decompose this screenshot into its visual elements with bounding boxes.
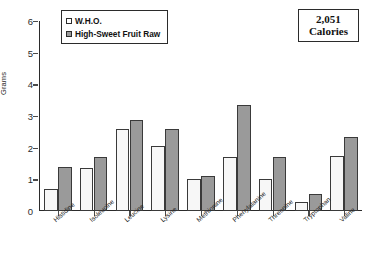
bar	[295, 202, 309, 211]
y-tick-mark	[33, 84, 38, 85]
bars-layer	[40, 21, 362, 211]
chart-legend: W.H.O.High-Sweet Fruit Raw	[61, 10, 168, 44]
white-square-swatch	[66, 18, 72, 24]
y-tick-0: 0	[0, 206, 39, 216]
bar-group	[80, 21, 108, 211]
bar	[223, 157, 237, 211]
calories-callout: 2,051 Calories	[298, 9, 359, 42]
bar-group	[116, 21, 144, 211]
bar	[130, 120, 144, 211]
y-tick-6: 6	[0, 16, 39, 26]
bar-group	[295, 21, 323, 211]
bar	[44, 189, 58, 211]
bar-chart: Grams 0123456 HistidineIsoleucineLeucine…	[0, 0, 370, 265]
bar-group	[330, 21, 358, 211]
y-tick-5: 5	[0, 48, 39, 58]
bar-group	[259, 21, 287, 211]
bar	[330, 156, 344, 211]
y-tick-2: 2	[0, 143, 39, 153]
bar	[237, 105, 251, 211]
calories-label: Calories	[309, 25, 348, 37]
bar	[151, 146, 165, 211]
y-tick-mark	[33, 148, 38, 149]
bar-group	[223, 21, 251, 211]
bar	[116, 129, 130, 211]
bar	[187, 179, 201, 211]
y-tick-3: 3	[0, 111, 39, 121]
y-tick-mark	[33, 116, 38, 117]
calories-value: 2,051	[309, 13, 348, 25]
bar-group	[187, 21, 215, 211]
bar	[80, 168, 94, 211]
legend-item-label: High-Sweet Fruit Raw	[75, 29, 160, 39]
y-tick-mark	[33, 53, 38, 54]
y-tick-4: 4	[0, 79, 39, 89]
legend-item-label: W.H.O.	[75, 16, 102, 26]
legend-item: High-Sweet Fruit Raw	[66, 27, 160, 40]
y-tick-1: 1	[0, 174, 39, 184]
legend-item: W.H.O.	[66, 14, 160, 27]
y-tick-mark	[33, 21, 38, 22]
bar	[165, 129, 179, 211]
bar	[344, 137, 358, 211]
bar-group	[151, 21, 179, 211]
y-tick-mark	[33, 179, 38, 180]
gray-square-swatch	[66, 31, 72, 37]
bar-group	[44, 21, 72, 211]
y-tick-label: 0	[28, 206, 39, 217]
